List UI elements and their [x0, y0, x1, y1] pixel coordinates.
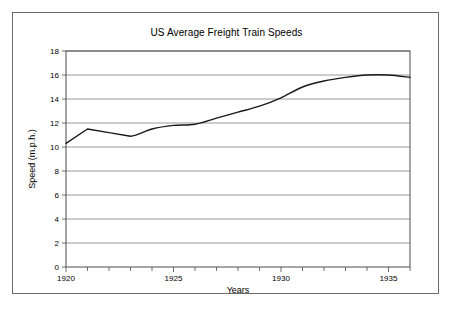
x-tickmarks — [66, 267, 410, 272]
y-tick-label: 2 — [55, 239, 60, 248]
chart-figure: US Average Freight Train Speeds — [12, 12, 439, 294]
y-tick-label: 10 — [50, 143, 59, 152]
data-line-freight-speed — [66, 75, 410, 144]
y-tick-label: 4 — [55, 215, 60, 224]
x-tick-label: 1935 — [380, 274, 398, 283]
x-tick-label: 1925 — [165, 274, 183, 283]
chart-plot: 18 16 14 12 10 8 6 4 2 0 — [13, 13, 440, 295]
y-tick-label: 6 — [55, 191, 60, 200]
y-tick-label: 16 — [50, 71, 59, 80]
y-tick-label: 12 — [50, 119, 59, 128]
y-axis-label: Speed (m.p.h.) — [27, 129, 37, 189]
y-tick-label: 8 — [55, 167, 60, 176]
y-tick-labels: 18 16 14 12 10 8 6 4 2 0 — [50, 47, 59, 272]
y-tick-label: 0 — [55, 263, 60, 272]
x-tick-label: 1930 — [272, 274, 290, 283]
plot-frame — [66, 51, 410, 267]
y-tick-label: 14 — [50, 95, 59, 104]
x-tick-label: 1920 — [57, 274, 75, 283]
y-tickmarks — [62, 51, 66, 267]
y-tick-label: 18 — [50, 47, 59, 56]
x-tick-labels: 1920 1925 1930 1935 — [57, 274, 398, 283]
gridlines — [66, 51, 410, 243]
x-axis-label: Years — [227, 285, 250, 295]
